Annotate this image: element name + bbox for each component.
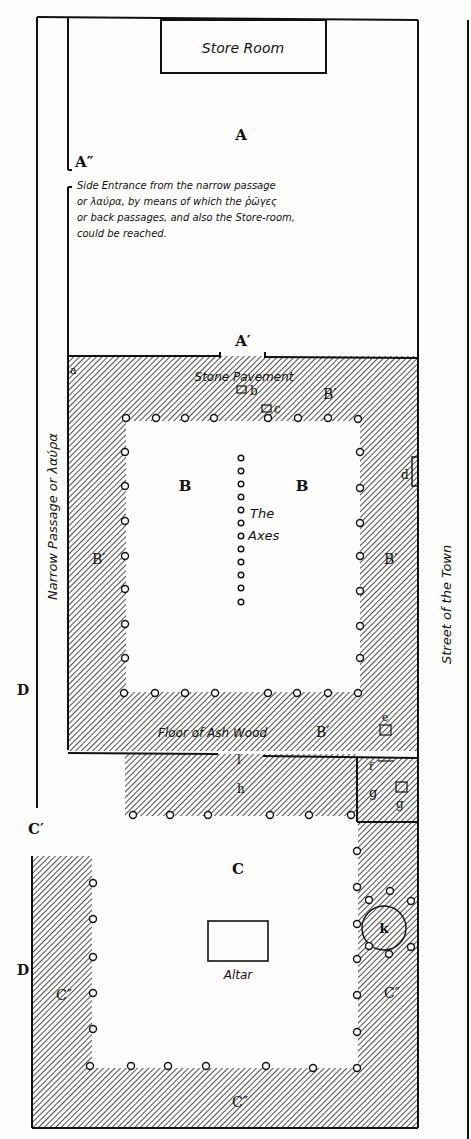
c-double-left-label: C″ [56, 987, 72, 1003]
door-l-label: l [237, 753, 241, 767]
house-plan-diagram: Store Room A A″ Side Entrance from the n… [0, 0, 471, 1139]
area-a-double-label: A″ [74, 153, 94, 171]
point-d-label: d [401, 468, 409, 482]
hall-b-right-label: B [296, 477, 309, 495]
hall-b-left-label: B [179, 477, 192, 495]
c-double-bottom-label: C″ [232, 1094, 248, 1110]
b-prime-left-label: B′ [92, 551, 105, 567]
gate-c-prime-label: C′ [28, 820, 44, 838]
altar-label: Altar [223, 968, 254, 982]
point-g2-label: g [396, 797, 404, 811]
side-entrance-note-4: could be reached. [77, 228, 167, 239]
point-g1-label: g [369, 785, 377, 800]
d-upper-label: D [17, 682, 29, 698]
stone-pavement-label: Stone Pavement [195, 370, 295, 384]
floor-ash-wood-label: Floor of Ash Wood [158, 726, 267, 740]
store-room-label: Store Room [202, 40, 284, 56]
b-prime-bottom-label: B′ [316, 724, 329, 740]
court-c-label: C [232, 860, 244, 878]
point-e-label: e [382, 711, 389, 724]
c-double-right-label: C″ [384, 985, 400, 1001]
street-of-town-label: Street of the Town [439, 545, 454, 664]
point-b-label: b [250, 384, 258, 398]
area-a-label: A [234, 126, 247, 144]
side-entrance-note-1: Side Entrance from the narrow passage [77, 180, 276, 191]
b-prime-right-label: B′ [384, 551, 397, 567]
the-axes-label-1: The [250, 506, 274, 521]
side-entrance-note-3: or back passages, and also the Store-roo… [77, 212, 295, 223]
point-h-label: h [237, 782, 245, 796]
b-prime-top-label: B′ [323, 386, 336, 402]
side-entrance-note-2: or λαύρα, by means of which the ῥῶγες [77, 196, 277, 207]
door-a-prime-label: A′ [234, 332, 251, 350]
point-k-label: k [379, 921, 389, 936]
narrow-passage-label: Narrow Passage or λαύρα [45, 433, 60, 600]
d-lower-label: D [17, 962, 29, 978]
point-c-label: c [274, 402, 281, 416]
point-a-label: a [70, 364, 77, 377]
the-axes-label-2: Axes [247, 528, 280, 543]
